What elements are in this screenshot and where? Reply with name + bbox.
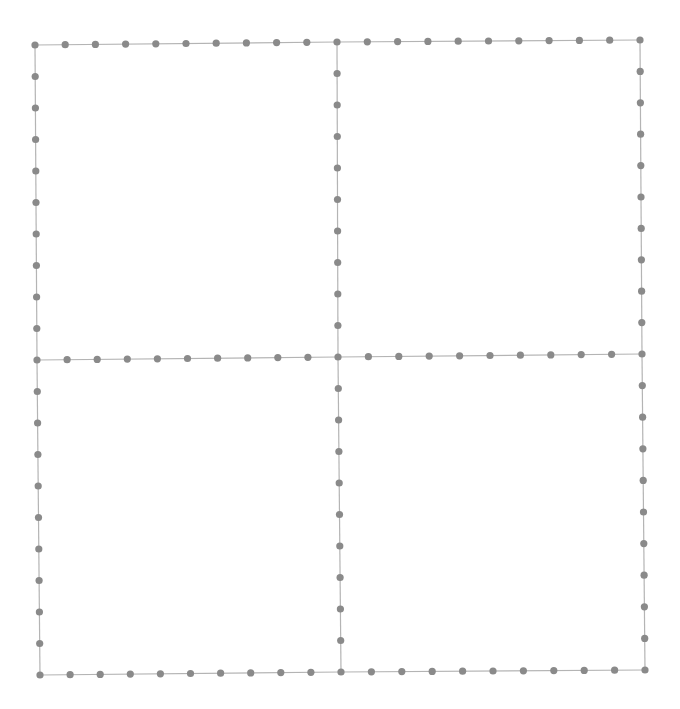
grid-dot [32,73,39,80]
grid-dot [157,670,164,677]
grid-dot [641,603,648,610]
grid-dot [335,385,342,392]
grid-dot [334,101,341,108]
grid-dot [365,353,372,360]
grid-dot [637,99,644,106]
grid-dot [429,668,436,675]
grid-dot [36,671,43,678]
grid-dot [637,193,644,200]
grid-dot [424,38,431,45]
grid-dot [639,382,646,389]
grid-dot [182,40,189,47]
grid-dot [304,354,311,361]
grid-dot [127,671,134,678]
grid-dot [35,545,42,552]
grid-dot [31,41,38,48]
grid-dot [214,355,221,362]
grid-dot [578,351,585,358]
grid-dot [333,38,340,45]
grid-dot [426,353,433,360]
grid-dot [122,41,129,48]
grid-dot [638,225,645,232]
grid-dot [33,356,40,363]
grid-dot [576,37,583,44]
grid-dot [32,104,39,111]
grid-dot [32,167,39,174]
grid-dot [638,288,645,295]
grid-dot [92,41,99,48]
grid-dot [213,40,220,47]
grid-dot [486,352,493,359]
grid-dot [636,36,643,43]
grid-dot [364,38,371,45]
grid-dot [244,354,251,361]
grid-dot [36,577,43,584]
grid-dot [62,41,69,48]
grid-dot [32,136,39,143]
grid-dot [34,451,41,458]
grid-dot [394,38,401,45]
grid-dot [307,669,314,676]
grid-dot [334,196,341,203]
grid-dot [33,325,40,332]
grid-dot [335,448,342,455]
grid-dot [33,293,40,300]
grid-dot [97,671,104,678]
grid-dot [36,608,43,615]
grid-dot [546,37,553,44]
grid-dot [152,40,159,47]
grid-dot [456,352,463,359]
grid-dot [640,477,647,484]
grid-dot [641,635,648,642]
grid-dot [334,259,341,266]
grid-dot [217,670,224,677]
grid-dot [640,540,647,547]
grid-dot [611,667,618,674]
grid-dot [515,37,522,44]
grid-dot [34,388,41,395]
grid-dot [336,479,343,486]
grid-dot [334,227,341,234]
grid-dot [334,133,341,140]
grid-dot [550,667,557,674]
grid-dot [337,637,344,644]
grid-dot [243,39,250,46]
grid-dot [33,262,40,269]
grid-dot [520,667,527,674]
grid-dot [303,39,310,46]
grid-dot [35,482,42,489]
grid-dot [36,640,43,647]
grid-dot [247,669,254,676]
grid-dot [334,353,341,360]
grid-dot [187,670,194,677]
grid-dot [334,290,341,297]
grid-dot [94,356,101,363]
grid-dot [124,356,131,363]
grid-dot [395,353,402,360]
grid-dot [337,605,344,612]
grid-dot [639,414,646,421]
grid-dot [274,354,281,361]
grid-dot [334,164,341,171]
grid-dot [459,668,466,675]
grid-dot [273,39,280,46]
grid-dot [455,38,462,45]
grid-dot [639,445,646,452]
grid-dot [277,669,284,676]
grid-dot [489,667,496,674]
grid-dot [517,352,524,359]
grid-dot [334,70,341,77]
grid-dot [581,667,588,674]
grid-dot [637,68,644,75]
grid-dot [336,542,343,549]
grid-dot [485,37,492,44]
grid-dot [34,419,41,426]
grid-dot [368,668,375,675]
grid-dot [608,351,615,358]
grid-dot [184,355,191,362]
grid-dot [334,322,341,329]
grid-dot [335,416,342,423]
grid-dot [641,572,648,579]
grid-dot [32,199,39,206]
grid-dot [398,668,405,675]
